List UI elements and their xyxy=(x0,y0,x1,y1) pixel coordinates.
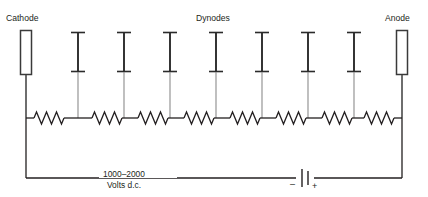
resistor-1 xyxy=(34,112,64,124)
anode-label: Anode xyxy=(385,13,410,23)
dynode-3 xyxy=(163,32,177,118)
pmt-circuit-diagram: Cathode Dynodes Anode xyxy=(0,0,428,197)
dynode-6 xyxy=(301,32,315,118)
anode-body xyxy=(397,31,408,75)
voltage-annotation: 1000–2000 Volts d.c. xyxy=(99,166,177,190)
battery-symbol: – + xyxy=(290,169,317,191)
dynode-1 xyxy=(71,32,85,118)
battery-positive-sign: + xyxy=(312,181,317,191)
dynodes-label: Dynodes xyxy=(196,13,230,23)
dynode-group xyxy=(71,32,361,118)
battery-negative-sign: – xyxy=(290,179,295,189)
resistor-7 xyxy=(322,112,352,124)
supply-loop xyxy=(26,118,402,178)
resistor-4 xyxy=(184,112,214,124)
anode-electrode xyxy=(397,31,408,119)
resistor-8 xyxy=(364,112,394,124)
cathode-label: Cathode xyxy=(6,13,39,23)
cathode-electrode xyxy=(21,31,32,119)
resistor-6 xyxy=(276,112,306,124)
resistor-5 xyxy=(230,112,260,124)
voltage-range-label: 1000–2000 xyxy=(103,169,145,179)
cathode-body xyxy=(21,31,32,75)
voltage-unit-label: Volts d.c. xyxy=(107,180,141,190)
resistor-3 xyxy=(138,112,168,124)
dynode-7 xyxy=(347,32,361,118)
resistor-2 xyxy=(92,112,122,124)
dynode-4 xyxy=(209,32,223,118)
dynode-5 xyxy=(255,32,269,118)
dynode-2 xyxy=(117,32,131,118)
resistor-chain xyxy=(26,112,402,124)
circuit-svg: Cathode Dynodes Anode xyxy=(0,0,428,197)
